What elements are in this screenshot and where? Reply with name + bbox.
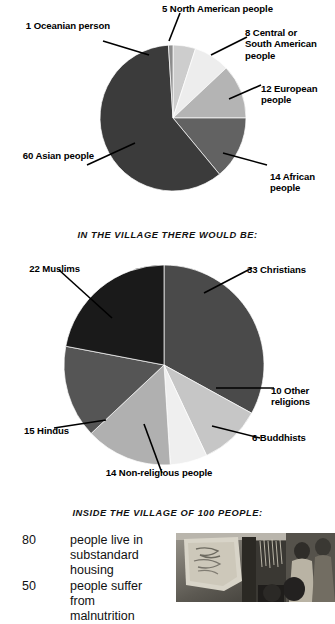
- fact-text: people live in substandard housing: [70, 533, 170, 578]
- pie-chart-village-religions: [64, 258, 264, 482]
- pie1-label-oceanian: 1 Oceanian person: [6, 20, 110, 31]
- pie-chart-world-regions: [101, 25, 247, 201]
- leader-line: [211, 37, 247, 55]
- facts-list: 80 people live in substandard housing 50…: [0, 533, 170, 624]
- heading-in-the-village: IN THE VILLAGE THERE WOULD BE:: [0, 230, 335, 240]
- pie2-label-muslims: 22 Muslims: [0, 263, 80, 274]
- fact-number: 50: [0, 579, 70, 594]
- pie2-label-hindus: 15 Hindus: [0, 425, 69, 436]
- fact-text: people suffer from malnutrition: [70, 579, 170, 624]
- pie2-label-buddhists: 6 Buddhists: [252, 432, 335, 443]
- photo-image: [176, 533, 335, 602]
- pie1-label-north-american: 5 North American people: [162, 3, 332, 14]
- pie2-label-christians: 33 Christians: [247, 264, 335, 275]
- pie1-label-european: 12 European people: [261, 83, 335, 106]
- list-item: 50 people suffer from malnutrition: [0, 579, 170, 624]
- village-photograph: [176, 533, 335, 602]
- pie1-label-central-south-american: 8 Central or South American people: [245, 27, 335, 61]
- fact-number: 80: [0, 533, 70, 548]
- leader-line: [169, 13, 180, 41]
- heading-inside-the-village: INSIDE THE VILLAGE OF 100 PEOPLE:: [0, 508, 335, 518]
- pie1-label-asian: 60 Asian people: [0, 150, 94, 161]
- list-item: 80 people live in substandard housing: [0, 533, 170, 578]
- pie2-label-other-religions: 10 Other religions: [271, 385, 335, 408]
- leader-line: [103, 41, 149, 55]
- pie2-label-non-religious: 14 Non-religious people: [76, 467, 242, 478]
- pie1-label-african: 14 African people: [270, 171, 335, 194]
